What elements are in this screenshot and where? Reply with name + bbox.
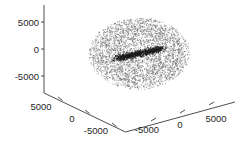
cloud-point [177,41,178,42]
cloud-point [150,71,151,72]
cloud-point [154,62,155,63]
cloud-point [151,31,152,32]
cloud-point [114,79,115,80]
cloud-point [129,43,130,44]
cloud-point [157,20,158,21]
cloud-point [160,61,161,62]
cloud-point [123,31,124,32]
core-point [149,54,150,55]
cloud-point [160,36,161,37]
cloud-point [100,61,101,62]
cloud-point [101,57,102,58]
cloud-point [162,70,163,71]
cloud-point [165,28,166,29]
cloud-point [139,66,140,67]
cloud-point [161,44,162,45]
cloud-point [165,51,166,52]
cloud-point [163,55,164,56]
cloud-point [122,72,123,73]
cloud-point [119,72,120,73]
cloud-point [110,45,111,46]
cloud-point [101,41,102,42]
cloud-point [174,50,175,51]
cloud-point [152,87,153,88]
cloud-point [169,29,170,30]
cloud-point [118,51,119,52]
cloud-point [162,85,163,86]
cloud-point [151,76,152,77]
core-point [144,55,145,56]
cloud-point [98,73,99,74]
cloud-point [144,85,145,86]
core-point [146,48,147,49]
cloud-point [168,39,169,40]
cloud-point [96,50,97,51]
cloud-point [90,54,91,55]
cloud-point [172,75,173,76]
cloud-point [165,75,166,76]
cloud-point [174,48,175,49]
cloud-point [161,38,162,39]
cloud-point [127,24,128,25]
core-point [121,56,122,57]
cloud-point [158,77,159,78]
cloud-point [91,51,92,52]
cloud-point [163,46,164,47]
cloud-point [111,36,112,37]
cloud-point [112,63,113,64]
cloud-point [106,39,107,40]
cloud-point [121,36,122,37]
core-point [157,46,158,47]
core-point [140,56,141,57]
cloud-point [175,63,176,64]
cloud-point [99,32,100,33]
cloud-point [152,73,153,74]
cloud-point [175,77,176,78]
cloud-point [124,20,125,21]
cloud-point [141,84,142,85]
core-point [148,52,149,53]
cloud-point [164,82,165,83]
cloud-point [135,71,136,72]
cloud-point [106,41,107,42]
cloud-point [139,87,140,88]
cloud-point [108,82,109,83]
cloud-point [93,42,94,43]
cloud-point [168,32,169,33]
cloud-point [162,27,163,28]
cloud-point [155,58,156,59]
cloud-point [113,45,114,46]
cloud-point [103,66,104,67]
cloud-point [131,22,132,23]
cloud-point [116,45,117,46]
cloud-point [111,68,112,69]
core-point [152,51,153,52]
cloud-point [183,45,184,46]
cloud-point [150,64,151,65]
cloud-point [119,38,120,39]
cloud-point [143,73,144,74]
cloud-point [114,71,115,72]
cloud-point [133,73,134,74]
cloud-point [162,76,163,77]
cloud-point [128,23,129,24]
cloud-point [131,80,132,81]
cloud-point [163,71,164,72]
cloud-point [106,58,107,59]
cloud-point [130,75,131,76]
cloud-point [180,47,181,48]
cloud-point [149,27,150,28]
cloud-point [113,84,114,85]
cloud-point [93,65,94,66]
cloud-point [169,42,170,43]
cloud-point [131,35,132,36]
cloud-point [172,44,173,45]
cloud-point [145,85,146,86]
cloud-point [161,78,162,79]
cloud-point [162,64,163,65]
cloud-point [151,43,152,44]
cloud-point [132,50,133,51]
cloud-point [94,67,95,68]
cloud-point [111,39,112,40]
cloud-point [185,51,186,52]
